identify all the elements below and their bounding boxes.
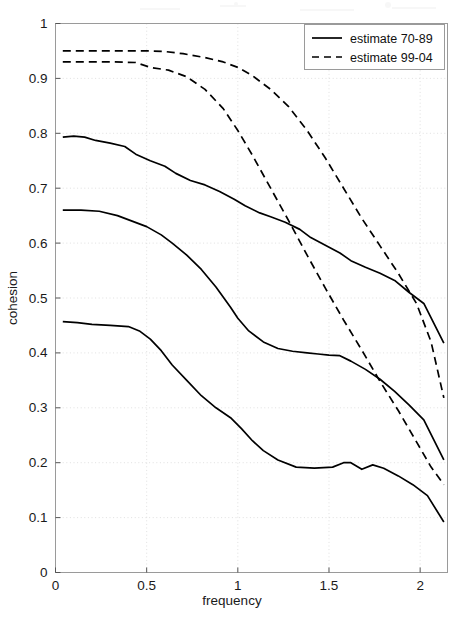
y-tick-label-9: 0.9 xyxy=(29,71,48,86)
y-tick-label-2: 0.2 xyxy=(29,455,48,470)
legend: estimate 70-89 estimate 99-04 xyxy=(305,25,445,70)
y-tick-label-7: 0.7 xyxy=(29,181,48,196)
y-tick-label-4: 0.4 xyxy=(29,345,48,360)
y-tick-label-1: 0.1 xyxy=(29,510,48,525)
y-tick-label-8: 0.8 xyxy=(29,126,48,141)
legend-label-0: estimate 70-89 xyxy=(350,32,433,46)
x-tick-label-1: 0.5 xyxy=(137,578,156,593)
cohesion-frequency-chart: 00.10.20.30.40.50.60.70.80.91 00.511.52 … xyxy=(0,0,464,617)
y-tick-label-3: 0.3 xyxy=(29,400,48,415)
x-tick-label-4: 2 xyxy=(416,578,424,593)
y-tick-label-5: 0.5 xyxy=(29,291,48,306)
y-tick-label-6: 0.6 xyxy=(29,236,48,251)
x-tick-label-2: 1 xyxy=(234,578,242,593)
x-axis-label: frequency xyxy=(202,593,262,608)
legend-label-1: estimate 99-04 xyxy=(350,51,433,65)
y-tick-label-0: 0 xyxy=(40,565,48,580)
x-tick-label-0: 0 xyxy=(52,578,60,593)
x-tick-label-3: 1.5 xyxy=(320,578,339,593)
y-tick-label-10: 1 xyxy=(40,16,48,31)
y-axis-label: cohesion xyxy=(5,271,20,325)
